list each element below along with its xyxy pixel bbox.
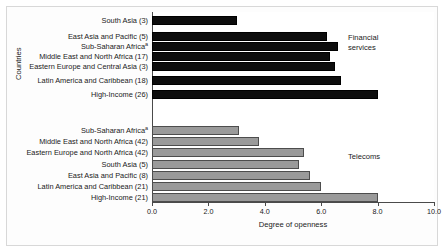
category-label-financial-4: Eastern Europe and Central Asia (3) bbox=[29, 62, 148, 71]
x-axis-title: Degree of openness bbox=[152, 220, 434, 229]
bar-telecoms-4 bbox=[152, 171, 310, 180]
category-label-telecoms-2: Eastern Europe and North Africa (42) bbox=[26, 148, 148, 157]
category-label-telecoms-5: Latin America and Caribbean (21) bbox=[37, 182, 148, 191]
category-label-telecoms-6: High-Income (21) bbox=[91, 193, 148, 202]
series-label-telecoms: Telecoms bbox=[348, 152, 380, 162]
x-tick-2 bbox=[265, 202, 266, 206]
bar-telecoms-2 bbox=[152, 148, 304, 157]
bar-telecoms-6 bbox=[152, 193, 378, 202]
x-tick-1 bbox=[208, 202, 209, 206]
bar-financial-4 bbox=[152, 62, 335, 71]
bar-fill bbox=[152, 148, 304, 157]
bar-fill bbox=[152, 76, 341, 85]
x-tick-3 bbox=[321, 202, 322, 206]
x-axis-line bbox=[152, 202, 434, 203]
bar-fill bbox=[152, 171, 310, 180]
bar-financial-3 bbox=[152, 52, 330, 61]
category-label-telecoms-4: East Asia and Pacific (8) bbox=[68, 171, 148, 180]
bar-fill bbox=[152, 160, 299, 169]
bar-fill bbox=[152, 52, 330, 61]
series-label-financial-line2: services bbox=[348, 43, 378, 53]
bar-fill bbox=[152, 90, 378, 99]
bar-financial-1 bbox=[152, 32, 327, 41]
x-tick-label-5: 10.0 bbox=[427, 207, 441, 216]
x-tick-label-4: 8.0 bbox=[373, 207, 383, 216]
category-label-financial-3: Middle East and North Africa (17) bbox=[39, 52, 148, 61]
x-tick-label-3: 6.0 bbox=[316, 207, 326, 216]
category-label-telecoms-0: Sub-Saharan Africaa bbox=[81, 126, 148, 135]
category-label-financial-2: Sub-Saharan Africaa bbox=[81, 42, 148, 51]
bar-fill bbox=[152, 193, 378, 202]
y-axis-title: Countries bbox=[14, 48, 23, 81]
x-tick-5 bbox=[434, 202, 435, 206]
x-tick-label-0: 0.0 bbox=[147, 207, 157, 216]
bar-financial-2 bbox=[152, 42, 338, 51]
x-tick-label-1: 2.0 bbox=[203, 207, 213, 216]
category-label-financial-0: South Asia (3) bbox=[102, 16, 148, 25]
bar-fill bbox=[152, 62, 335, 71]
bar-financial-0 bbox=[152, 16, 237, 25]
bar-fill bbox=[152, 126, 239, 135]
x-tick-4 bbox=[378, 202, 379, 206]
x-tick-label-2: 4.0 bbox=[260, 207, 270, 216]
category-label-financial-6: High-Income (26) bbox=[91, 90, 148, 99]
series-label-financial-line1: Financial bbox=[348, 33, 378, 43]
bar-fill bbox=[152, 32, 327, 41]
category-label-financial-5: Latin America and Caribbean (18) bbox=[37, 76, 148, 85]
bar-fill bbox=[152, 42, 338, 51]
bar-telecoms-5 bbox=[152, 182, 321, 191]
x-tick-0 bbox=[152, 202, 153, 206]
series-label-financial-services: Financial services bbox=[348, 33, 378, 52]
bar-telecoms-0 bbox=[152, 126, 239, 135]
chart-figure: South Asia (3)East Asia and Pacific (5)S… bbox=[0, 0, 444, 252]
category-label-telecoms-1: Middle East and North Africa (42) bbox=[39, 137, 148, 146]
footnote-marker: a bbox=[145, 40, 148, 46]
bar-telecoms-1 bbox=[152, 137, 259, 146]
bar-financial-6 bbox=[152, 90, 378, 99]
bar-financial-5 bbox=[152, 76, 341, 85]
bar-fill bbox=[152, 16, 237, 25]
bar-fill bbox=[152, 137, 259, 146]
bar-fill bbox=[152, 182, 321, 191]
category-label-financial-1: East Asia and Pacific (5) bbox=[68, 32, 148, 41]
category-label-telecoms-3: South Asia (5) bbox=[102, 160, 148, 169]
footnote-marker: a bbox=[145, 124, 148, 130]
bar-telecoms-3 bbox=[152, 160, 299, 169]
